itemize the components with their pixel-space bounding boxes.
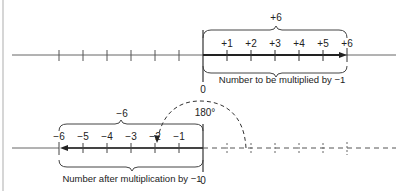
svg-text:+4: +4 — [293, 38, 305, 49]
svg-text:+3: +3 — [269, 38, 281, 49]
svg-text:−4: −4 — [101, 131, 113, 142]
svg-text:+2: +2 — [245, 38, 257, 49]
multiplication-by-negative-one-diagram: +6 +1 +2 +3 +4 +5 +6 0 Number to be mult… — [0, 0, 404, 191]
bottom-brace-label: −6 — [116, 108, 128, 119]
top-caption: Number to be multiplied by −1 — [219, 74, 345, 85]
svg-text:+5: +5 — [317, 38, 329, 49]
bottom-caption: Number after multiplication by −1 — [62, 173, 201, 184]
top-zero-label: 0 — [200, 84, 206, 95]
svg-text:−6: −6 — [53, 131, 65, 142]
svg-text:+6: +6 — [341, 38, 353, 49]
svg-text:−1: −1 — [173, 131, 185, 142]
bottom-lower-brace — [59, 160, 203, 171]
svg-text:+1: +1 — [221, 38, 233, 49]
bottom-upper-brace — [59, 120, 203, 131]
bottom-number-line — [12, 120, 396, 172]
svg-text:−2: −2 — [149, 131, 161, 142]
top-tick-labels: +1 +2 +3 +4 +5 +6 — [221, 38, 353, 49]
bottom-tick-labels: −6 −5 −4 −3 −2 −1 — [53, 131, 185, 142]
rotation-angle-label: 180° — [195, 107, 216, 118]
svg-text:−3: −3 — [125, 131, 137, 142]
upper-brace — [203, 26, 347, 38]
top-brace-label: +6 — [270, 12, 282, 23]
svg-text:−5: −5 — [77, 131, 89, 142]
